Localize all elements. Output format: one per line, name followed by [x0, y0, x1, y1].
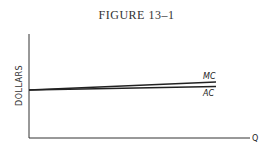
y-axis-label: DOLLARS: [15, 65, 24, 106]
x-axis-label: Q: [252, 134, 258, 143]
cost-chart: MC AC Q DOLLARS: [0, 0, 273, 151]
ac-label: AC: [202, 89, 214, 98]
mc-label: MC: [203, 72, 216, 81]
